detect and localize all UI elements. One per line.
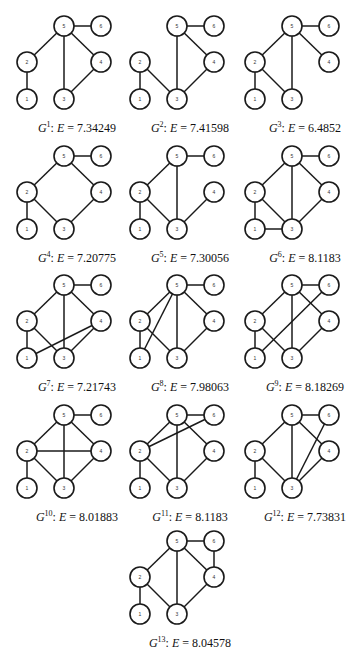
node-4: 4 <box>91 182 111 202</box>
graph-symbol: G <box>269 251 278 265</box>
graph-index: 6 <box>278 250 282 259</box>
node-4: 4 <box>204 311 224 331</box>
graph-energy-figure: 123456G1: E = 7.34249123456G2: E = 7.415… <box>0 0 355 659</box>
energy-value: 7.98063 <box>190 380 229 394</box>
node-2: 2 <box>245 52 265 72</box>
graph-panel-g5: 123456G5: E = 7.30056 <box>131 135 249 265</box>
node-6: 6 <box>204 531 224 551</box>
node-label: 6 <box>100 412 103 418</box>
node-2: 2 <box>130 52 150 72</box>
graph-panel-g12: 123456G12: E = 7.73831 <box>246 394 355 524</box>
energy-value: 8.1183 <box>308 251 341 265</box>
graph-index: 8 <box>160 379 164 388</box>
energy-value: 7.41598 <box>190 121 229 135</box>
node-6: 6 <box>91 275 111 295</box>
node-label: 2 <box>26 59 29 65</box>
graph-caption: G13: E = 8.04578 <box>131 636 249 651</box>
node-label: 2 <box>139 318 142 324</box>
energy-value: 6.4852 <box>308 121 341 135</box>
node-3: 3 <box>282 89 302 109</box>
node-label: 5 <box>63 282 66 288</box>
node-2: 2 <box>245 441 265 461</box>
node-6: 6 <box>204 146 224 166</box>
node-label: 1 <box>254 226 257 232</box>
node-label: 4 <box>213 59 216 65</box>
node-label: 3 <box>63 96 66 102</box>
energy-symbol: E <box>288 251 295 265</box>
graph-caption: G7: E = 7.21743 <box>18 380 136 395</box>
graph-symbol: G <box>151 251 160 265</box>
graph-drawing: 123456 <box>18 135 136 245</box>
node-2: 2 <box>245 182 265 202</box>
node-label: 1 <box>139 611 142 617</box>
node-label: 4 <box>328 189 331 195</box>
node-6: 6 <box>204 275 224 295</box>
node-label: 1 <box>139 226 142 232</box>
node-1: 1 <box>17 219 37 239</box>
graph-index: 13 <box>158 635 166 644</box>
node-label: 4 <box>328 59 331 65</box>
node-label: 3 <box>176 485 179 491</box>
graph-caption: G3: E = 6.4852 <box>246 121 355 136</box>
node-label: 5 <box>291 282 294 288</box>
node-5: 5 <box>282 275 302 295</box>
node-label: 1 <box>139 485 142 491</box>
node-label: 1 <box>254 96 257 102</box>
node-label: 1 <box>254 355 257 361</box>
graph-panel-g2: 123456G2: E = 7.41598 <box>131 5 249 135</box>
node-3: 3 <box>167 89 187 109</box>
energy-value: 7.30056 <box>190 251 229 265</box>
node-6: 6 <box>319 16 339 36</box>
graph-drawing: 123456 <box>246 264 355 374</box>
energy-symbol: E <box>172 636 179 650</box>
node-label: 3 <box>291 226 294 232</box>
node-5: 5 <box>282 16 302 36</box>
node-1: 1 <box>17 348 37 368</box>
node-label: 1 <box>26 96 29 102</box>
node-label: 2 <box>139 189 142 195</box>
node-label: 6 <box>213 538 216 544</box>
node-label: 2 <box>254 448 257 454</box>
node-label: 3 <box>63 226 66 232</box>
energy-value: 8.18269 <box>305 380 344 394</box>
node-label: 5 <box>291 412 294 418</box>
node-label: 4 <box>100 448 103 454</box>
graph-panel-g13: 123456G13: E = 8.04578 <box>131 520 249 650</box>
node-label: 6 <box>328 153 331 159</box>
graph-symbol: G <box>269 121 278 135</box>
graph-drawing: 123456 <box>131 5 249 115</box>
graph-drawing: 123456 <box>131 394 249 504</box>
node-3: 3 <box>167 219 187 239</box>
node-label: 3 <box>63 485 66 491</box>
energy-value: 7.34249 <box>77 121 116 135</box>
node-label: 6 <box>328 412 331 418</box>
node-label: 2 <box>26 189 29 195</box>
node-label: 2 <box>26 318 29 324</box>
graph-panel-g6: 123456G6: E = 8.1183 <box>246 135 355 265</box>
node-3: 3 <box>167 348 187 368</box>
graph-index: 3 <box>278 120 282 129</box>
node-label: 4 <box>100 59 103 65</box>
graph-symbol: G <box>38 380 47 394</box>
node-label: 2 <box>139 59 142 65</box>
graph-drawing: 123456 <box>131 264 249 374</box>
node-3: 3 <box>54 219 74 239</box>
node-label: 6 <box>213 153 216 159</box>
node-label: 6 <box>100 153 103 159</box>
node-label: 6 <box>100 282 103 288</box>
node-1: 1 <box>17 89 37 109</box>
node-1: 1 <box>17 478 37 498</box>
node-label: 2 <box>139 574 142 580</box>
graph-symbol: G <box>36 510 45 524</box>
graph-symbol: G <box>266 380 275 394</box>
node-label: 5 <box>63 23 66 29</box>
energy-value: 7.73831 <box>307 510 346 524</box>
node-label: 4 <box>213 189 216 195</box>
node-5: 5 <box>167 275 187 295</box>
node-label: 2 <box>254 189 257 195</box>
node-4: 4 <box>204 52 224 72</box>
node-6: 6 <box>319 275 339 295</box>
graph-caption: G1: E = 7.34249 <box>18 121 136 136</box>
graph-panel-g11: 123456G11: E = 8.1183 <box>131 394 249 524</box>
graph-panel-g9: 123456G9: E = 8.18269 <box>246 264 355 394</box>
